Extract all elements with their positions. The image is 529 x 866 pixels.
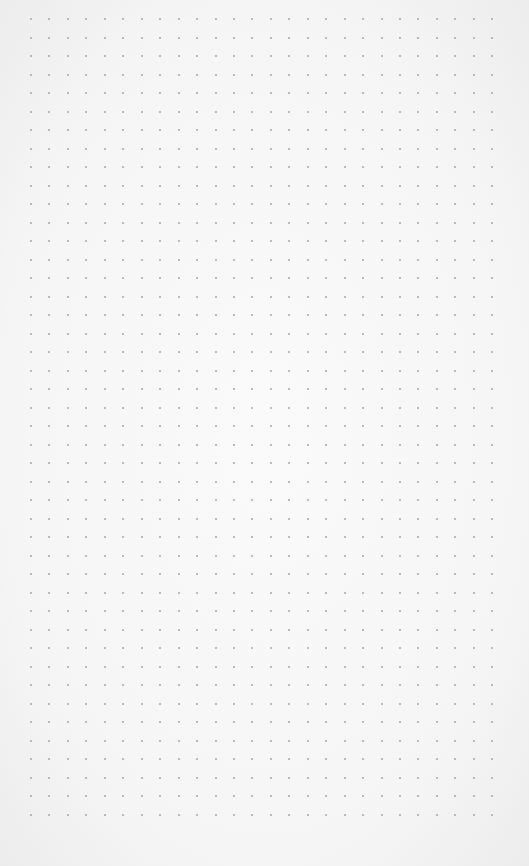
grid-dot (251, 462, 253, 464)
grid-dot (325, 814, 327, 816)
grid-dot (233, 407, 235, 409)
grid-dot (196, 370, 198, 372)
grid-dot (270, 333, 272, 335)
grid-dot (122, 314, 124, 316)
grid-dot (67, 573, 69, 575)
grid-dot (196, 703, 198, 705)
grid-dot (30, 92, 32, 94)
grid-dot (325, 647, 327, 649)
grid-dot (307, 185, 309, 187)
grid-dot (307, 518, 309, 520)
grid-dot (251, 425, 253, 427)
grid-dot (122, 666, 124, 668)
grid-dot (307, 684, 309, 686)
grid-dot (399, 610, 401, 612)
grid-dot (491, 314, 493, 316)
grid-dot (288, 92, 290, 94)
grid-dot (307, 37, 309, 39)
grid-dot (141, 185, 143, 187)
grid-dot (67, 240, 69, 242)
grid-dot (307, 444, 309, 446)
grid-dot (381, 407, 383, 409)
grid-dot (473, 240, 475, 242)
grid-dot (196, 592, 198, 594)
grid-dot (48, 259, 50, 261)
grid-dot (104, 407, 106, 409)
grid-dot (344, 18, 346, 20)
grid-dot (344, 37, 346, 39)
grid-dot (30, 536, 32, 538)
grid-dot (436, 721, 438, 723)
grid-dot (399, 185, 401, 187)
grid-dot (399, 536, 401, 538)
grid-dot (251, 407, 253, 409)
grid-dot (159, 111, 161, 113)
grid-dot (325, 37, 327, 39)
grid-dot (344, 277, 346, 279)
grid-dot (159, 610, 161, 612)
grid-dot (141, 703, 143, 705)
grid-dot (67, 351, 69, 353)
grid-dot (473, 203, 475, 205)
grid-dot (215, 795, 217, 797)
grid-dot (325, 592, 327, 594)
grid-dot (473, 407, 475, 409)
grid-dot (270, 481, 272, 483)
grid-dot (362, 388, 364, 390)
grid-dot (178, 721, 180, 723)
grid-dot (436, 703, 438, 705)
grid-dot (178, 351, 180, 353)
grid-dot (122, 518, 124, 520)
grid-dot (325, 703, 327, 705)
grid-dot (417, 129, 419, 131)
grid-dot (473, 499, 475, 501)
grid-dot (436, 333, 438, 335)
grid-dot (48, 795, 50, 797)
grid-dot (344, 481, 346, 483)
grid-dot (48, 333, 50, 335)
grid-dot (436, 666, 438, 668)
grid-dot (491, 610, 493, 612)
grid-dot (344, 629, 346, 631)
grid-dot (325, 684, 327, 686)
grid-dot (85, 333, 87, 335)
grid-dot (141, 55, 143, 57)
grid-dot (141, 166, 143, 168)
grid-dot (491, 166, 493, 168)
grid-dot (381, 111, 383, 113)
grid-dot (233, 333, 235, 335)
grid-dot (30, 148, 32, 150)
grid-dot (85, 462, 87, 464)
grid-dot (215, 425, 217, 427)
grid-dot (473, 129, 475, 131)
grid-dot (307, 388, 309, 390)
grid-dot (417, 240, 419, 242)
grid-dot (215, 203, 217, 205)
grid-dot (85, 148, 87, 150)
grid-dot (141, 629, 143, 631)
grid-dot (85, 166, 87, 168)
grid-dot (251, 296, 253, 298)
grid-dot (362, 148, 364, 150)
grid-dot (159, 277, 161, 279)
grid-dot (85, 351, 87, 353)
grid-dot (141, 370, 143, 372)
grid-dot (251, 314, 253, 316)
grid-dot (473, 18, 475, 20)
grid-dot (399, 388, 401, 390)
grid-dot (325, 148, 327, 150)
grid-dot (381, 277, 383, 279)
grid-dot (454, 203, 456, 205)
grid-dot (399, 166, 401, 168)
grid-dot (159, 259, 161, 261)
grid-dot (104, 462, 106, 464)
grid-dot (399, 499, 401, 501)
grid-dot (270, 388, 272, 390)
grid-dot (48, 203, 50, 205)
grid-dot (48, 518, 50, 520)
grid-dot (436, 148, 438, 150)
grid-dot (104, 555, 106, 557)
grid-dot (85, 92, 87, 94)
grid-dot (436, 592, 438, 594)
grid-dot (85, 18, 87, 20)
